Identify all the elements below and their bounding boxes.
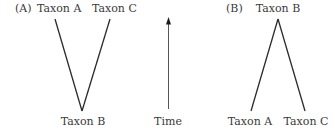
panel-a-branch-right <box>82 19 110 111</box>
panel-a-branch-left <box>55 19 82 111</box>
panel-b-branch-right <box>278 19 305 111</box>
panel-b-branch-left <box>251 19 278 111</box>
panel-b-taxon-b: Taxon B <box>256 2 301 15</box>
time-axis: Time <box>154 17 182 128</box>
panel-a-taxon-b: Taxon B <box>61 115 106 128</box>
panel-a-taxon-c: Taxon C <box>92 2 137 15</box>
phylogeny-diagram: (A) Taxon A Taxon C Taxon B Time (B) Tax… <box>0 0 335 132</box>
panel-a-taxon-a: Taxon A <box>37 2 82 15</box>
panel-b: (B) Taxon B Taxon A Taxon C <box>226 2 328 128</box>
panel-b-taxon-c: Taxon C <box>284 115 329 128</box>
time-label: Time <box>154 115 182 128</box>
arrow-up-icon <box>166 17 171 25</box>
panel-a-label: (A) <box>15 2 32 15</box>
panel-b-label: (B) <box>226 2 243 15</box>
panel-b-taxon-a: Taxon A <box>228 115 273 128</box>
panel-a: (A) Taxon A Taxon C Taxon B <box>15 2 137 128</box>
